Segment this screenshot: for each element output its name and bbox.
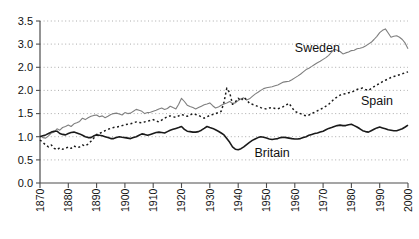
y-axis-tick-label: 2.0 (18, 84, 33, 96)
x-axis-tick-label: 1980 (345, 188, 357, 212)
x-axis-tick-label: 2000 (402, 188, 414, 212)
y-axis-tick-label: 2.0 (18, 61, 33, 73)
y-axis-tick-label: 1.5 (18, 107, 33, 119)
x-axis-tick-label: 1910 (147, 188, 159, 212)
series-label-sweden: Sweden (295, 41, 340, 55)
x-axis-tick-label: 1890 (90, 188, 102, 212)
y-axis-tick-label: 1.0 (18, 131, 33, 143)
series-line-sweden (40, 29, 408, 138)
x-axis-tick-label: 1930 (204, 188, 216, 212)
x-axis-tick-label: 1960 (289, 188, 301, 212)
series-line-spain (40, 72, 408, 150)
line-chart-figure: 3.53.02.02.01.51.00.50.01870188018901900… (0, 0, 419, 239)
x-axis-tick-label: 1870 (34, 188, 46, 212)
x-axis-tick-label: 1940 (232, 188, 244, 212)
y-axis-tick-label: 0.5 (18, 154, 33, 166)
series-label-britain: Britain (254, 146, 289, 160)
x-axis-tick-label: 1920 (175, 188, 187, 212)
line-chart: 3.53.02.02.01.51.00.50.01870188018901900… (0, 0, 419, 239)
x-axis-tick-label: 1950 (260, 188, 272, 212)
series-label-spain: Spain (361, 94, 393, 108)
y-axis-tick-label: 3.0 (18, 38, 33, 50)
x-axis-tick-label: 1970 (317, 188, 329, 212)
y-axis-tick-label: 0.0 (18, 177, 33, 189)
x-axis-tick-label: 1900 (119, 188, 131, 212)
x-axis-tick-label: 1880 (62, 188, 74, 212)
y-axis-tick-label: 3.5 (18, 15, 33, 27)
x-axis-tick-label: 1990 (374, 188, 386, 212)
